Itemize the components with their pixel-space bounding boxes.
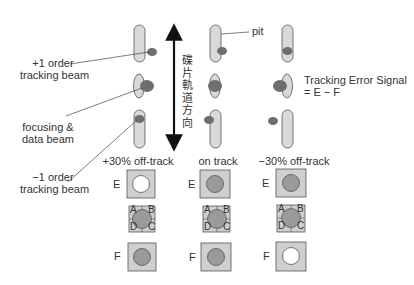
minus1-beam-spot	[204, 116, 214, 124]
label-F: F	[263, 250, 270, 262]
column-title-plus30: +30% off-track	[100, 155, 176, 167]
leader-pit	[221, 32, 249, 34]
pit-bottom	[210, 110, 221, 148]
label-F: F	[114, 250, 121, 262]
direction-char: 道	[181, 92, 193, 105]
plus1-beam-spot	[217, 47, 227, 55]
label-E: E	[188, 178, 195, 190]
direction-char: 向	[181, 117, 193, 130]
direction-char: 片	[181, 67, 193, 80]
direction-char: 軌	[181, 79, 193, 92]
leader-focus	[66, 88, 142, 116]
pit-bottom	[282, 110, 293, 148]
label-track-direction: 碟片軌道方向	[181, 54, 193, 129]
label-F: F	[189, 251, 196, 263]
detector-F-spot	[134, 249, 151, 266]
label-minus1-order: −1 order tracking beam	[20, 171, 86, 195]
minus1-beam-spot	[268, 117, 278, 125]
plus1-beam-spot	[283, 47, 293, 55]
column-title-minus30: −30% off-track	[252, 155, 336, 167]
pit-top	[134, 25, 145, 62]
quadrant-D: D	[204, 221, 211, 232]
column-title-ontrack: on track	[180, 155, 256, 167]
direction-char: 碟	[181, 54, 193, 67]
column-ontrack-pits	[204, 25, 227, 148]
quadrant-D: D	[278, 220, 285, 231]
focus-beam-spot	[208, 80, 222, 92]
detector-E-spot	[283, 175, 300, 192]
label-plus1-order: +1 order tracking beam	[20, 57, 86, 81]
detector-E-spot	[207, 176, 224, 193]
column-minus30-pits	[268, 25, 293, 148]
quadrant-C: C	[223, 221, 230, 232]
column-plus30-pits	[134, 25, 158, 148]
direction-char: 方	[181, 104, 193, 117]
pit-top	[210, 25, 221, 62]
detector-F-spot	[208, 249, 225, 266]
label-pit: pit	[252, 25, 264, 37]
detector-E-spot	[133, 176, 150, 193]
quadrant-D: D	[130, 221, 137, 232]
focus-beam-spot	[140, 80, 154, 92]
pit-top	[282, 25, 293, 62]
minus1-beam-spot	[135, 115, 145, 123]
quadrant-B: B	[223, 204, 230, 215]
label-E: E	[113, 178, 120, 190]
focus-beam-spot	[273, 80, 287, 92]
quadrant-A: A	[278, 203, 285, 214]
quadrant-B: B	[148, 204, 155, 215]
label-tracking-error-signal: Tracking Error Signal = E − F	[304, 74, 407, 98]
quadrant-A: A	[204, 204, 211, 215]
label-focus-beam: focusing & data beam	[18, 121, 78, 145]
quadrant-C: C	[148, 221, 155, 232]
detector-F-spot	[283, 248, 300, 265]
quadrant-A: A	[130, 204, 137, 215]
label-E: E	[262, 177, 269, 189]
quadrant-C: C	[297, 220, 304, 231]
quadrant-B: B	[297, 203, 304, 214]
